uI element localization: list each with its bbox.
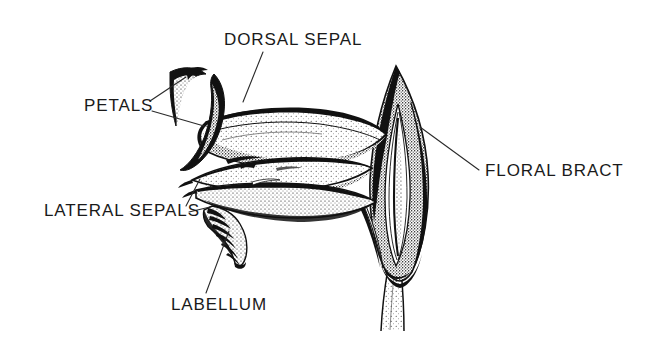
botanical-figure: DORSAL SEPAL PETALS LATERAL SEPALS LABEL… — [0, 0, 656, 344]
label-dorsal-sepal: DORSAL SEPAL — [224, 31, 362, 48]
floral-bract-shape — [370, 66, 429, 288]
leader-labellum — [206, 231, 229, 293]
label-petals: PETALS — [84, 97, 153, 114]
label-floral-bract: FLORAL BRACT — [485, 162, 624, 179]
label-labellum: LABELLUM — [171, 296, 267, 313]
label-lateral-sepals: LATERAL SEPALS — [44, 202, 200, 219]
labellum-shape — [203, 206, 246, 269]
leader-dorsal-sepal — [243, 52, 263, 102]
leader-floral-bract — [420, 127, 479, 170]
